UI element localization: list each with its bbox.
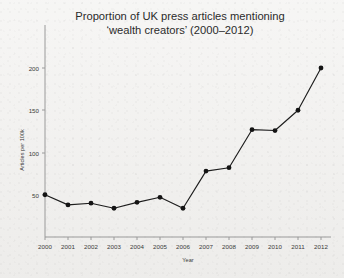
data-point-2008 [227,165,232,170]
x-tick-label-2002: 2002 [84,243,98,250]
chart-canvas: Proportion of UK press articles mentioni… [0,0,344,278]
x-tick-label-2012: 2012 [314,243,328,250]
chart-title-line-2: ‘wealth creators’ (2000–2012) [107,24,254,36]
data-point-2004 [135,200,140,205]
x-tick-label-2006: 2006 [176,243,190,250]
x-tick-label-2004: 2004 [130,243,144,250]
y-axis-title: Articles per 100k [19,129,25,171]
x-tick-label-2005: 2005 [153,243,167,250]
y-tick-label-200: 200 [29,65,40,72]
data-point-2000 [43,192,48,197]
chart-title-line-1: Proportion of UK press articles mentioni… [75,10,285,22]
data-point-2011 [296,108,301,113]
x-tick-label-2007: 2007 [199,243,213,250]
data-point-2012 [319,66,324,71]
data-point-2009 [250,127,255,132]
y-tick-label-50: 50 [32,192,39,199]
series-markers-group [43,66,324,211]
x-tick-label-2008: 2008 [222,243,236,250]
data-point-2010 [273,128,278,133]
x-axis-title: Year [182,257,193,263]
x-axis-tick-labels: 2000 2001 2002 2003 2004 2005 2006 2007 … [38,243,328,250]
x-tick-label-2011: 2011 [291,243,305,250]
y-tick-label-100: 100 [29,150,40,157]
data-point-2007 [204,169,209,174]
series-line-articles [45,68,321,208]
x-tick-label-2010: 2010 [268,243,282,250]
data-point-2006 [181,206,186,211]
x-tick-label-2003: 2003 [107,243,121,250]
y-tick-label-150: 150 [29,107,40,114]
x-tick-label-2001: 2001 [61,243,75,250]
line-chart: Proportion of UK press articles mentioni… [0,0,344,278]
data-point-2002 [89,201,94,206]
x-tick-label-2000: 2000 [38,243,52,250]
x-tick-label-2009: 2009 [245,243,259,250]
data-point-2003 [112,206,117,211]
data-point-2005 [158,195,163,200]
data-point-2001 [66,202,71,207]
